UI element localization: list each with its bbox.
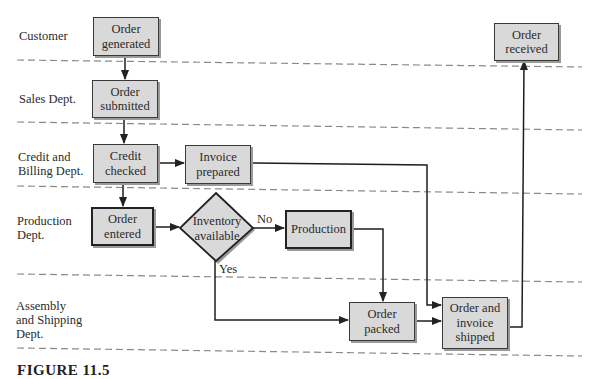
node-credit-checked: Credit checked [93, 144, 158, 183]
lane-divider-5 [17, 348, 582, 356]
lane-divider-1 [17, 60, 582, 67]
node-production: Production [285, 210, 352, 249]
edge-label-no: No [257, 212, 272, 227]
arrow-shipped-to-received [508, 61, 524, 327]
node-order-received: Order received [494, 23, 559, 61]
node-order-invoice-shipped: Order and invoice shipped [442, 297, 508, 349]
node-order-packed: Order packed [349, 302, 415, 341]
lane-label-customer: Customer [19, 29, 68, 43]
lane-divider-4 [17, 274, 582, 282]
lane-label-sales: Sales Dept. [19, 92, 76, 106]
lane-label-production: Production Dept. [17, 214, 72, 242]
lane-label-assembly-shipping: Assembly and Shipping Dept. [16, 299, 82, 341]
connectors [123, 56, 524, 327]
node-inventory-available-label: Inventory available [181, 214, 253, 243]
lane-divider-2 [17, 122, 582, 130]
node-invoice-prepared: Invoice prepared [185, 145, 251, 184]
arrow-production-to-packed [351, 229, 383, 301]
node-order-submitted: Order submitted [92, 80, 158, 118]
node-order-entered: Order entered [91, 207, 154, 246]
node-order-generated: Order generated [93, 17, 159, 56]
lane-divider-3 [17, 186, 582, 194]
lane-label-credit-billing: Credit and Billing Dept. [18, 150, 83, 178]
edge-label-yes: Yes [219, 262, 237, 277]
figure-caption: FIGURE 11.5 [17, 362, 110, 379]
